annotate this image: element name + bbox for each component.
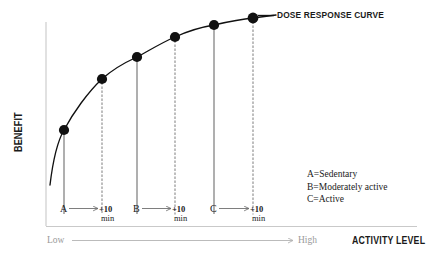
dose-response-chart: [0, 0, 429, 263]
x-tick-min-a: min: [101, 213, 114, 223]
range-label-high: High: [298, 235, 317, 245]
x-tick-min-c: min: [252, 213, 265, 223]
data-point-B: [132, 52, 142, 62]
data-point-A10: [97, 74, 107, 84]
chart-title: DOSE RESPONSE CURVE: [277, 9, 384, 20]
data-point-B10: [170, 32, 180, 42]
x-tick-plus10-a: +10: [99, 204, 112, 214]
dose-response-curve-line: [50, 15, 276, 185]
legend-item-b: B=Moderately active: [307, 181, 388, 194]
range-label-low: Low: [47, 235, 64, 245]
x-axis-title: ACTIVITY LEVEL: [352, 235, 425, 246]
legend: A=Sedentary B=Moderately active C=Active: [307, 168, 388, 206]
data-point-C10: [248, 13, 259, 24]
data-point-C: [209, 20, 219, 30]
y-axis-title: BENEFIT: [13, 112, 24, 152]
x-tick-plus10-b: +10: [172, 204, 185, 214]
x-tick-label-a: A: [60, 203, 67, 214]
x-tick-label-c: C: [210, 203, 217, 214]
chart-screenshot: DOSE RESPONSE CURVE BENEFIT ACTIVITY LEV…: [0, 0, 429, 263]
legend-item-c: C=Active: [307, 193, 388, 206]
x-tick-min-b: min: [174, 213, 187, 223]
legend-item-a: A=Sedentary: [307, 168, 388, 181]
x-tick-label-b: B: [133, 203, 140, 214]
data-point-A: [59, 125, 69, 135]
x-tick-plus10-c: +10: [250, 204, 263, 214]
